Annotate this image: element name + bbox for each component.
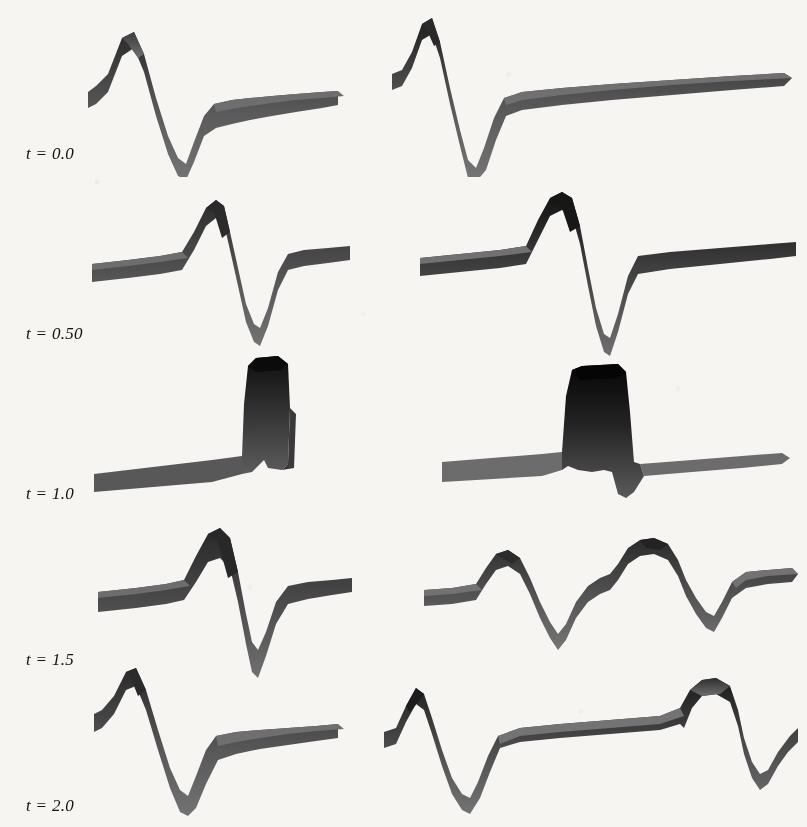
surface-plot <box>92 352 372 517</box>
wave-surface-front <box>88 32 338 177</box>
surface-plot <box>88 192 368 357</box>
surface-plot <box>88 666 378 824</box>
surface-plot <box>82 12 352 177</box>
wave-surface-front <box>420 192 796 356</box>
surface-panel-t0-narrow <box>82 12 352 177</box>
surface-plot <box>96 520 376 685</box>
surface-plot <box>420 192 804 357</box>
surface-panel-t050-wide <box>420 192 804 357</box>
surface-panel-t20-wide <box>380 666 804 827</box>
plateau-surface-right <box>640 453 790 476</box>
surface-panel-t10-narrow <box>92 352 372 517</box>
surface-panel-t10-wide <box>442 352 804 517</box>
shock-front-surface <box>242 356 290 474</box>
wave-surface-front <box>424 538 798 650</box>
surface-panel-t15-wide <box>424 520 804 685</box>
plot-row: t = 1.5 <box>0 520 807 685</box>
plateau-surface <box>94 456 242 492</box>
surface-panel-t20-narrow <box>88 666 378 827</box>
plateau-surface-left <box>442 452 562 482</box>
surface-plot <box>392 12 804 177</box>
surface-plot <box>380 666 804 824</box>
figure-surface-plot-grid: t = 0.0 <box>0 0 807 827</box>
wave-surface-front <box>384 678 798 814</box>
plot-row: t = 1.0 <box>0 352 807 517</box>
row-label-text: t = 1.0 <box>26 484 74 503</box>
surface-panel-t0-wide <box>392 12 804 177</box>
surface-panel-t15-narrow <box>96 520 376 685</box>
plot-row: t = 2.0 <box>0 666 807 827</box>
surface-plot <box>424 520 804 685</box>
wave-surface-front <box>392 18 792 177</box>
plot-row: t = 0.0 <box>0 12 807 177</box>
shock-front-surface <box>562 364 644 498</box>
row-label-text: t = 0.0 <box>26 144 74 163</box>
row-label-text: t = 2.0 <box>26 796 74 815</box>
row-label-text: t = 0.50 <box>26 324 83 343</box>
plot-row: t = 0.50 <box>0 192 807 357</box>
surface-panel-t050-narrow <box>88 192 368 357</box>
surface-plot <box>442 352 804 517</box>
wave-surface-front <box>94 668 338 816</box>
